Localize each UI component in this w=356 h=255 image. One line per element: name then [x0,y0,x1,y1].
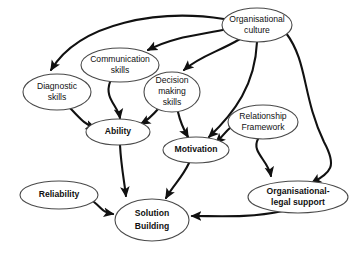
motivation-label: Motivation [175,144,218,154]
diagnostic-skills-label-line2: skills [48,92,67,102]
decision-making-skills-label-line2: making [158,86,186,96]
influence-diagram: Diagnostic skills Communication skills D… [0,0,356,255]
solution-building-label-line2: Building [135,221,169,231]
communication-skills-label-line1: Communication [90,54,150,64]
communication-skills-label-line2: skills [111,65,130,75]
node-decision-making-skills[interactable]: Decision making skills [144,72,200,112]
solution-building-ellipse[interactable] [115,199,189,241]
diagram-canvas: Diagnostic skills Communication skills D… [0,0,356,255]
solution-building-label-line1: Solution [135,208,169,218]
node-motivation[interactable]: Motivation [163,137,229,163]
node-relationship-framework[interactable]: Relationship Framework [228,105,298,139]
relationship-framework-label-line1: Relationship [239,111,287,121]
node-ability[interactable]: Ability [86,119,150,145]
edge-ability-to-solution [120,145,126,196]
ability-label: Ability [105,126,131,136]
node-solution-building[interactable]: Solution Building [115,199,189,241]
relationship-framework-label-line2: Framework [242,122,286,132]
decision-making-skills-label-line1: Decision [156,75,189,85]
node-organisational-culture[interactable]: Organisational culture [222,8,292,42]
node-diagnostic-skills[interactable]: Diagnostic skills [23,74,91,110]
node-layer: Diagnostic skills Communication skills D… [20,8,348,241]
edge-legal-support-to-solution [192,211,283,216]
edge-decision-to-motivation [178,112,188,137]
organisational-legal-support-label-line2: legal support [271,197,325,207]
organisational-culture-label-line1: Organisational [229,14,285,24]
edge-motivation-to-solution [166,163,189,198]
organisational-legal-support-label-line1: Organisational- [266,186,329,196]
decision-making-skills-label-line3: skills [163,97,182,107]
edge-reliability-to-solution [94,202,113,214]
edge-communication-to-ability [109,82,120,118]
edge-culture-to-decision [184,39,240,70]
reliability-label: Reliability [39,189,80,199]
node-reliability[interactable]: Reliability [20,181,98,209]
node-communication-skills[interactable]: Communication skills [81,48,159,82]
node-organisational-legal-support[interactable]: Organisational- legal support [248,181,348,213]
edge-relationship-to-legal-support [256,139,271,176]
organisational-culture-label-line2: culture [244,25,270,35]
edge-culture-to-communication [148,29,228,50]
edge-decision-to-ability [141,108,159,124]
edge-culture-to-legal-support [286,33,331,183]
diagnostic-skills-label-line1: Diagnostic [37,81,78,91]
